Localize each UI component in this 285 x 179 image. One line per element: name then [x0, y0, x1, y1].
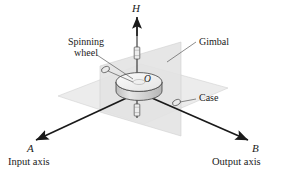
h-axis-label: H: [132, 2, 140, 14]
spinning-wheel-label-line1: Spinning: [58, 36, 114, 47]
spinning-wheel-label: Spinning wheel: [58, 36, 114, 58]
gyroscope-diagram-canvas: [0, 0, 285, 179]
gyroscope-figure: H Spinning wheel Gimbal Case O A Input a…: [0, 0, 285, 179]
lower-bearing-icon: [134, 104, 140, 116]
spinning-wheel-label-line2: wheel: [58, 47, 114, 58]
b-axis-label: B: [252, 142, 259, 154]
origin-label: O: [144, 74, 151, 85]
gimbal-label: Gimbal: [199, 36, 229, 47]
upper-bearing-icon: [134, 47, 140, 59]
output-axis-label: Output axis: [212, 156, 261, 168]
case-label: Case: [199, 92, 218, 103]
a-axis-label: A: [27, 142, 34, 154]
spinning-wheel-disk: [116, 73, 162, 101]
input-axis-label: Input axis: [8, 156, 50, 168]
